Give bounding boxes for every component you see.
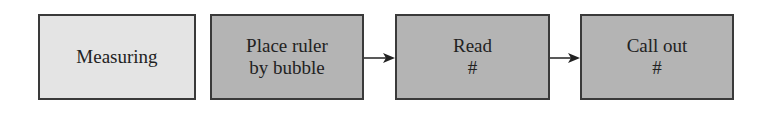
edges-layer — [0, 0, 767, 123]
edge-place-to-read — [364, 53, 395, 63]
edge-read-to-callout — [550, 53, 580, 63]
